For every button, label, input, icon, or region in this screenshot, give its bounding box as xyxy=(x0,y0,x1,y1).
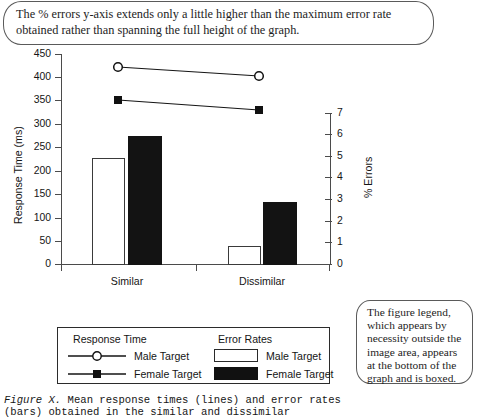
annotation-callout-right: The figure legend, which appears by nece… xyxy=(356,300,473,384)
annotation-callout-top: The % errors y-axis extends only a littl… xyxy=(3,1,434,45)
error-rate-lines xyxy=(0,46,370,306)
figure-caption: Figure X. Mean response times (lines) an… xyxy=(4,394,344,419)
line-male-target xyxy=(118,67,259,76)
annotation-callout-top-text: The % errors y-axis extends only a littl… xyxy=(16,7,391,37)
line-female-target xyxy=(118,100,259,110)
marker-male-dissimilar xyxy=(255,72,264,81)
figure-chart: 450 400 350 300 250 200 150 100 50 0 Res… xyxy=(0,46,370,306)
legend-swatch-bar-male-target xyxy=(214,349,258,362)
marker-male-similar xyxy=(114,63,123,72)
legend-heading-response-time: Response Time xyxy=(73,333,147,345)
figure-legend-box: Response Time Error Rates Male Target Ma… xyxy=(57,327,330,384)
legend-swatch-line-female-target xyxy=(68,368,126,380)
legend-label-bar-female-target: Female Target xyxy=(266,368,334,380)
marker-female-dissimilar xyxy=(255,106,263,114)
legend-label-line-male-target: Male Target xyxy=(134,350,189,362)
legend-swatch-bar-female-target xyxy=(214,367,258,380)
legend-swatch-line-male-target xyxy=(68,350,126,362)
marker-female-similar xyxy=(114,96,122,104)
legend-label-line-female-target: Female Target xyxy=(134,368,202,380)
legend-label-bar-male-target: Male Target xyxy=(266,350,321,362)
legend-heading-error-rates: Error Rates xyxy=(218,333,272,345)
category-label-dissimilar: Dissimilar xyxy=(222,275,302,287)
figure-caption-prefix: Figure X. xyxy=(4,394,61,406)
annotation-callout-right-text: The figure legend, which appears by nece… xyxy=(367,306,461,384)
category-label-similar: Similar xyxy=(87,275,167,287)
